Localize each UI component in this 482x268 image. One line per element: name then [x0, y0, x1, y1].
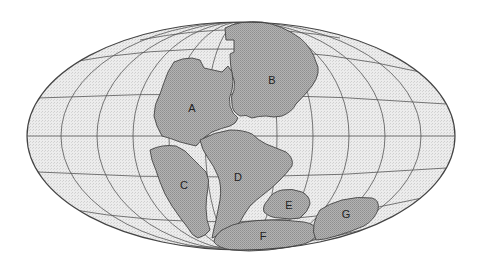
label-g: G [342, 208, 351, 220]
label-f: F [260, 230, 267, 242]
label-c: C [180, 179, 188, 191]
label-e: E [285, 199, 292, 211]
label-a: A [188, 102, 196, 114]
label-b: B [268, 74, 275, 86]
label-d: D [234, 171, 242, 183]
supercontinent-map: A B C D E F G [0, 0, 482, 268]
